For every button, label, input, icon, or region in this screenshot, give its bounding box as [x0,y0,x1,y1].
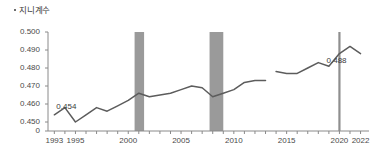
x-tick-label: 2005 [172,136,190,145]
y-tick-label: 0 [6,126,40,135]
y-tick-label: 0.490 [6,45,40,54]
y-tick-label: 0.460 [6,99,40,108]
x-tick-label: 1995 [67,136,85,145]
y-tick-label: 0.450 [6,117,40,126]
x-tick-label: 2022 [352,136,370,145]
axes-layer [45,32,369,134]
y-tick-label: 0.480 [6,63,40,72]
series-line-0 [54,81,265,122]
x-tick-label: 2010 [225,136,243,145]
y-tick-label: 0.500 [6,27,40,36]
series-line-1 [276,46,360,73]
end-value-label: 0.488 [327,56,347,65]
shaded-bands-layer [135,32,224,131]
series-layer [54,46,360,122]
x-tick-label: 2015 [278,136,296,145]
start-value-label: 0.454 [56,102,76,111]
gini-coefficient-chart: 지니계수 0.5000.4900.4800.4700.4600.4500 199… [0,0,377,159]
x-tick-label: 2020 [331,136,349,145]
recession-band-2008 [210,32,224,131]
x-tick-label: 1993 [45,136,63,145]
x-tick-label: 2000 [119,136,137,145]
recession-band-2001 [135,32,145,131]
y-tick-label: 0.470 [6,81,40,90]
